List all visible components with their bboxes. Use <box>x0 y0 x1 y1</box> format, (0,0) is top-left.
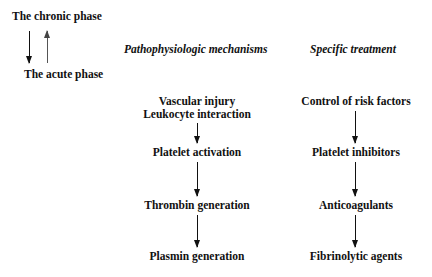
mechanism-leukocyte-interaction: Leukocyte interaction <box>143 108 251 121</box>
arrow-down-icon <box>29 31 30 63</box>
treatment-header: Specific treatment <box>310 43 396 56</box>
chronic-phase-label: The chronic phase <box>12 10 102 23</box>
treatment-platelet-inhibitors: Platelet inhibitors <box>312 146 400 159</box>
arrow-down-icon <box>355 215 356 247</box>
treatment-control-risk-factors: Control of risk factors <box>301 95 410 108</box>
treatment-anticoagulants: Anticoagulants <box>319 199 393 212</box>
acute-phase-label: The acute phase <box>24 68 103 81</box>
mechanism-plasmin-generation: Plasmin generation <box>150 250 245 263</box>
arrow-up-icon <box>47 31 48 63</box>
arrow-down-icon <box>197 162 198 196</box>
mechanism-platelet-activation: Platelet activation <box>153 146 241 159</box>
mechanism-vascular-injury: Vascular injury <box>159 95 235 108</box>
arrow-down-icon <box>355 111 356 143</box>
arrow-down-icon <box>355 162 356 196</box>
arrow-down-icon <box>197 123 198 143</box>
mechanism-thrombin-generation: Thrombin generation <box>144 199 250 212</box>
treatment-fibrinolytic-agents: Fibrinolytic agents <box>310 250 402 263</box>
arrow-down-icon <box>197 215 198 247</box>
mechanisms-header: Pathophysiologic mechanisms <box>124 43 267 56</box>
